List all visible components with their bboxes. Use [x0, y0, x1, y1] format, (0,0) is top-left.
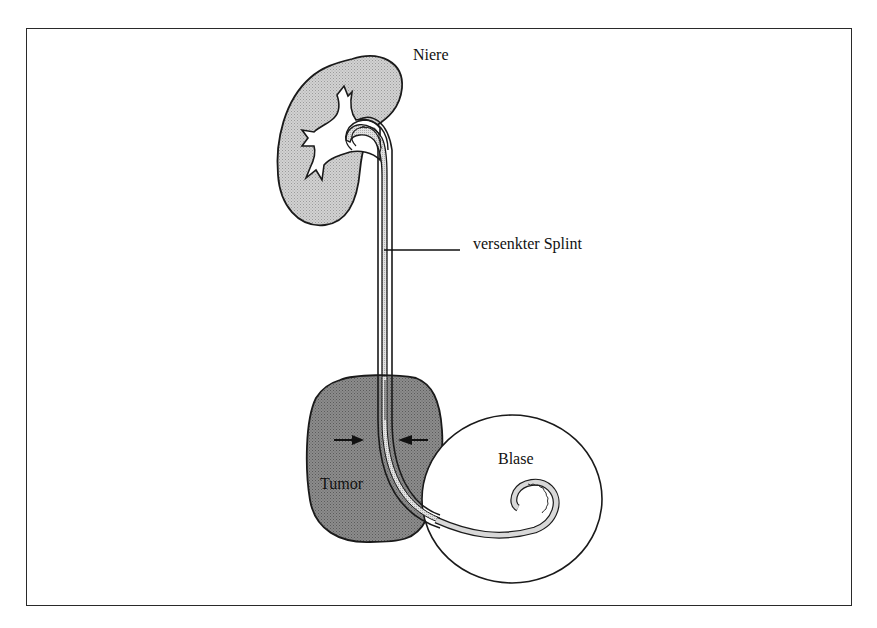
label-bladder: Blase	[498, 451, 534, 467]
label-kidney: Niere	[413, 47, 449, 63]
label-splint: versenkter Splint	[473, 236, 582, 252]
diagram-canvas: Niere versenkter Splint Blase Tumor	[0, 0, 877, 628]
anatomy-illustration	[0, 0, 877, 628]
label-tumor: Tumor	[320, 476, 363, 492]
tumor	[307, 375, 443, 542]
